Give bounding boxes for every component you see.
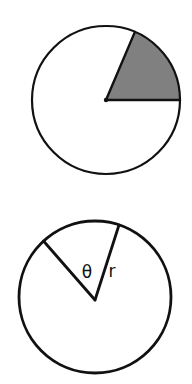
circle-sector-figure: θ r <box>0 0 192 384</box>
sector-center-point <box>104 98 108 102</box>
radius-label: r <box>109 261 116 281</box>
theta-label: θ <box>82 262 92 282</box>
